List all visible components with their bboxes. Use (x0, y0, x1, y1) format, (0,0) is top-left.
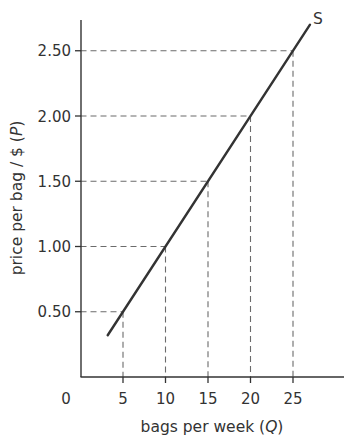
x-tick-label: 15 (198, 390, 217, 408)
origin-label: 0 (61, 390, 71, 408)
y-tick-label: 1.00 (38, 238, 71, 256)
x-tick-label: 20 (241, 390, 260, 408)
axes (81, 20, 344, 377)
supply-label: S (313, 10, 323, 28)
y-tick-label: 1.50 (38, 173, 71, 191)
supply-chart: 0.501.001.502.002.50510152025 S 0 bags p… (0, 0, 344, 439)
x-tick-label: 5 (118, 390, 128, 408)
x-tick-label: 10 (156, 390, 175, 408)
supply-line (108, 25, 310, 336)
x-axis-title: bags per week (Q) (141, 418, 284, 436)
y-tick-label: 0.50 (38, 303, 71, 321)
x-tick-label: 25 (283, 390, 302, 408)
y-axis-title: price per bag / $ (P) (8, 121, 26, 276)
y-tick-label: 2.00 (38, 108, 71, 126)
y-tick-label: 2.50 (38, 42, 71, 60)
supply-curve: S (108, 10, 323, 336)
